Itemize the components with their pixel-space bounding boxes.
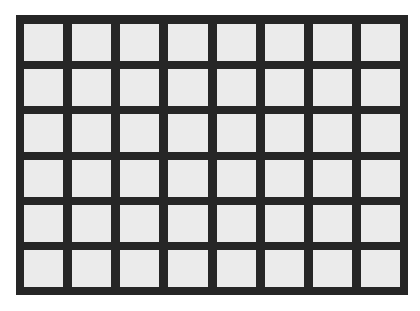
grid-cell — [361, 250, 400, 287]
grid-cell — [265, 160, 304, 197]
grid-cell — [313, 114, 352, 151]
grid-cell — [120, 69, 159, 106]
grid-cell — [24, 114, 63, 151]
grid-cell — [24, 250, 63, 287]
grid-cell — [168, 250, 207, 287]
grid-cell — [72, 160, 111, 197]
grid-cell — [24, 160, 63, 197]
grid-cell — [120, 24, 159, 61]
grid-cell — [361, 114, 400, 151]
grid-cell — [72, 114, 111, 151]
grid-cell — [217, 24, 256, 61]
grid-cell — [120, 250, 159, 287]
grid-cell — [24, 24, 63, 61]
grid-cell — [265, 69, 304, 106]
grid-cell — [265, 250, 304, 287]
grid-cell — [168, 24, 207, 61]
grid-cell — [361, 205, 400, 242]
grid-cell — [168, 69, 207, 106]
grid-cell — [217, 250, 256, 287]
grid-cell — [217, 205, 256, 242]
grid-cell — [120, 160, 159, 197]
grid-cell — [313, 250, 352, 287]
grid-cell — [168, 114, 207, 151]
grid-cell — [313, 160, 352, 197]
grid-cell — [265, 205, 304, 242]
grid-cell — [168, 160, 207, 197]
grid-cell — [120, 114, 159, 151]
grid-cell — [72, 205, 111, 242]
grid-cell — [24, 69, 63, 106]
grid-pattern — [16, 15, 408, 295]
grid-cell — [265, 24, 304, 61]
grid-cell — [265, 114, 304, 151]
grid-cell — [361, 160, 400, 197]
grid-cell — [120, 205, 159, 242]
grid-cell — [361, 69, 400, 106]
grid-cell — [313, 69, 352, 106]
grid-cell — [72, 250, 111, 287]
grid-cell — [313, 205, 352, 242]
grid-cell — [24, 205, 63, 242]
grid-cell — [217, 160, 256, 197]
grid-cell — [313, 24, 352, 61]
grid-cell — [72, 69, 111, 106]
grid-cell — [361, 24, 400, 61]
grid-cell — [217, 69, 256, 106]
grid-cell — [72, 24, 111, 61]
grid-cell — [217, 114, 256, 151]
grid-cell — [168, 205, 207, 242]
